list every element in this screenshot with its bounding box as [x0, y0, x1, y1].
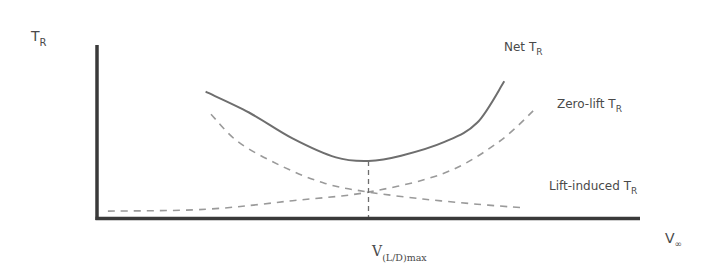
lift-induced-tr-label-main: Lift-induced T — [549, 179, 632, 193]
lift-induced-tr-label: Lift-induced TR — [549, 179, 637, 196]
vmax-label: V(L/D)max — [371, 243, 427, 263]
zero-lift-tr-curve — [108, 107, 537, 211]
net-tr-label-main: Net T — [504, 40, 537, 54]
axes-group — [96, 45, 641, 220]
zero-lift-tr-label-main: Zero-lift T — [557, 97, 616, 111]
y-axis-label-sub: R — [40, 37, 47, 48]
curves-group — [108, 81, 537, 218]
y-axis-label: TR — [30, 28, 47, 48]
net-tr-label-sub: R — [536, 47, 542, 57]
x-axis-label-sub: ∞ — [675, 239, 683, 249]
y-axis-label-main: T — [30, 28, 40, 44]
x-axis-label-main: V — [665, 230, 675, 246]
zero-lift-tr-label-sub: R — [616, 104, 622, 114]
net-tr-label: Net TR — [504, 40, 542, 57]
thrust-required-diagram: TR V∞ V(L/D)max Net TR Zero-lift TR Lift… — [0, 0, 720, 271]
x-axis-label: V∞ — [665, 230, 682, 249]
vmax-label-sub: (L/D)max — [382, 252, 427, 263]
lift-induced-tr-label-sub: R — [631, 186, 637, 196]
zero-lift-tr-label: Zero-lift TR — [557, 97, 622, 114]
